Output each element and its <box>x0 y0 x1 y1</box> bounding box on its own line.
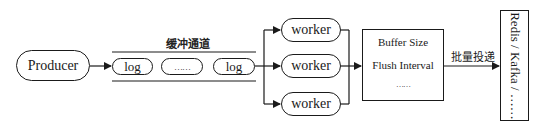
producer-label: Producer <box>28 58 79 74</box>
channel-title: 缓冲通道 <box>160 35 216 51</box>
worker-node-3: worker <box>281 92 341 116</box>
batch-config-flush-interval: Flush Interval <box>363 59 443 71</box>
batch-config-buffer-size: Buffer Size <box>363 36 443 48</box>
batch-config-box: Buffer Size Flush Interval …… <box>362 29 444 101</box>
worker-node-1: worker <box>281 18 341 42</box>
worker-node-2: worker <box>281 54 341 78</box>
producer-node: Producer <box>16 50 90 81</box>
batch-config-more: …… <box>363 80 443 89</box>
sink-label: Redis / Kafka / …… <box>507 10 523 121</box>
sink-box: Redis / Kafka / …… <box>500 10 529 121</box>
channel-item-log-1: log <box>112 58 153 75</box>
channel-item-log-2: log <box>213 58 255 75</box>
channel-item-ellipsis: …… <box>161 58 203 75</box>
batch-delivery-label: 批量投递 <box>449 48 497 64</box>
